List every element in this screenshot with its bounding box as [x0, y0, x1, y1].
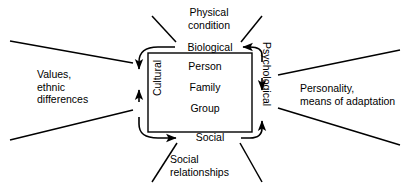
domain-label-social: Social: [182, 131, 238, 144]
core-entities: Person Family Group: [155, 60, 255, 123]
line-personality-lower: [278, 108, 400, 145]
context-label-social-relationships: Social relationships: [170, 153, 256, 178]
domain-label-psychological: Psychological: [261, 37, 273, 111]
core-item-family: Family: [155, 81, 255, 93]
line-personality-upper: [278, 50, 400, 75]
context-label-personality: Personality, means of adaptation: [300, 82, 406, 107]
context-label-physical-condition: Physical condition: [173, 6, 245, 31]
line-values-lower: [10, 110, 133, 140]
core-item-group: Group: [155, 102, 255, 114]
line-values-upper: [10, 41, 133, 63]
context-label-values-ethnic-differences: Values, ethnic differences: [37, 68, 107, 106]
biopsychosocial-diagram: Physical condition Biological Cultural P…: [0, 0, 409, 187]
core-item-person: Person: [155, 60, 255, 72]
domain-label-biological: Biological: [179, 41, 241, 54]
